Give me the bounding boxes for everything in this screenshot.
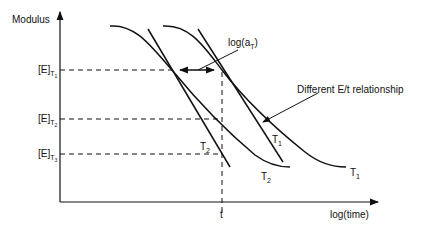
level-label-t2: [E]T2 xyxy=(38,114,57,128)
shift-leader xyxy=(198,50,238,70)
label-line-t1: T1 xyxy=(272,135,282,147)
label-line-t2: T2 xyxy=(200,142,210,154)
annotation-label: Different E/t relationship xyxy=(297,85,404,95)
annotation-arrow xyxy=(263,93,318,122)
time-marker-label: t xyxy=(220,210,223,220)
line-t2 xyxy=(148,29,230,167)
label-curve-t2: T2 xyxy=(261,172,271,184)
shift-label: log(aT) xyxy=(228,38,258,50)
x-axis-label: log(time) xyxy=(330,210,369,220)
level-label-t3: [E]T3 xyxy=(38,149,57,163)
modulus-time-diagram xyxy=(0,0,422,232)
level-label-t1: [E]T1 xyxy=(38,65,57,79)
label-curve-t1: T1 xyxy=(350,168,360,180)
y-axis-label: Modulus xyxy=(12,15,50,25)
